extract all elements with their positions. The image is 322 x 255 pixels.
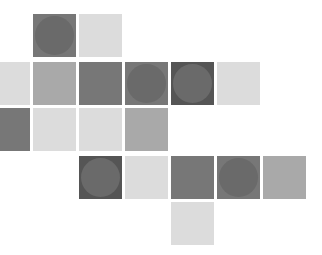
game-piece-circle-icon[interactable] xyxy=(219,158,258,197)
board-tile[interactable] xyxy=(79,14,122,57)
board-tile[interactable] xyxy=(171,156,214,199)
game-piece-circle-icon[interactable] xyxy=(127,64,166,103)
game-piece-circle-icon[interactable] xyxy=(35,16,74,55)
board-tile[interactable] xyxy=(0,108,30,151)
board-tile[interactable] xyxy=(217,62,260,105)
board-tile[interactable] xyxy=(79,62,122,105)
game-piece-circle-icon[interactable] xyxy=(173,64,212,103)
board-tile[interactable] xyxy=(33,62,76,105)
game-board xyxy=(0,0,322,255)
board-tile[interactable] xyxy=(0,62,30,105)
board-tile[interactable] xyxy=(171,62,214,105)
board-tile[interactable] xyxy=(171,202,214,245)
board-tile[interactable] xyxy=(125,156,168,199)
board-tile[interactable] xyxy=(79,156,122,199)
board-tile[interactable] xyxy=(125,62,168,105)
board-tile[interactable] xyxy=(125,108,168,151)
board-tile[interactable] xyxy=(263,156,306,199)
game-piece-circle-icon[interactable] xyxy=(81,158,120,197)
board-tile[interactable] xyxy=(79,108,122,151)
board-tile[interactable] xyxy=(33,14,76,57)
board-tile[interactable] xyxy=(217,156,260,199)
board-tile[interactable] xyxy=(33,108,76,151)
